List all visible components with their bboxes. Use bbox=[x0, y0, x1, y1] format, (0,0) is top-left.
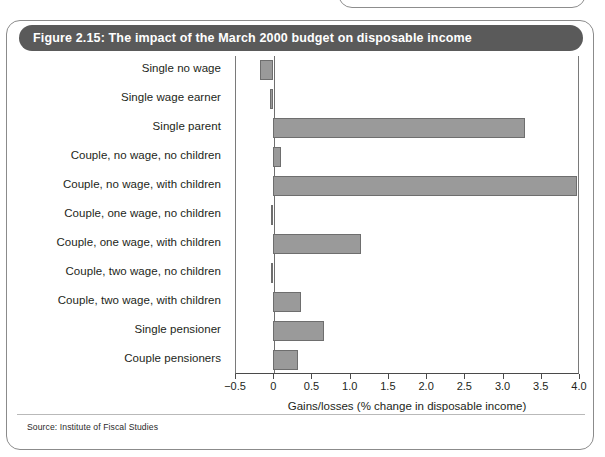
x-axis-tick-labels: −0.500.51.01.52.02.53.03.54.0 bbox=[235, 380, 579, 396]
x-tick bbox=[579, 374, 580, 379]
bar-couple-one-wage-no-children bbox=[271, 205, 273, 225]
category-label: Couple pensioners bbox=[124, 352, 221, 364]
bar-single-parent bbox=[273, 118, 525, 138]
category-label: Single parent bbox=[153, 120, 221, 132]
bars-layer bbox=[235, 56, 579, 374]
x-tick bbox=[464, 374, 465, 379]
x-tick-label: 1.5 bbox=[380, 380, 395, 392]
figure-source-note: Source: Institute of Fiscal Studies bbox=[27, 422, 158, 432]
clipped-rounded-box-above bbox=[338, 0, 586, 8]
category-label: Single wage earner bbox=[121, 91, 221, 103]
figure-card: Figure 2.15: The impact of the March 200… bbox=[6, 20, 594, 450]
category-label: Couple, no wage, no children bbox=[71, 149, 221, 161]
category-label: Single no wage bbox=[142, 62, 221, 74]
x-tick bbox=[388, 374, 389, 379]
bar-couple-one-wage-with-children bbox=[273, 234, 361, 254]
x-tick-label: 2.0 bbox=[418, 380, 433, 392]
x-tick-label: 1.0 bbox=[342, 380, 357, 392]
category-axis-labels: Single no wageSingle wage earnerSingle p… bbox=[7, 56, 229, 374]
bar-couple-two-wage-with-children bbox=[273, 292, 301, 312]
category-label: Couple, two wage, no children bbox=[65, 265, 221, 277]
x-tick bbox=[350, 374, 351, 379]
chart-plot-region: Single no wageSingle wage earnerSingle p… bbox=[7, 21, 594, 450]
x-tick-label: 0.5 bbox=[304, 380, 319, 392]
bar-single-pensioner bbox=[273, 321, 324, 341]
x-tick bbox=[541, 374, 542, 379]
x-tick bbox=[273, 374, 274, 379]
bar-single-no-wage bbox=[260, 60, 273, 80]
bar-couple-no-wage-no-children bbox=[273, 147, 281, 167]
category-label: Couple, two wage, with children bbox=[58, 294, 221, 306]
category-label: Couple, no wage, with children bbox=[63, 178, 221, 190]
category-label: Couple, one wage, no children bbox=[64, 207, 221, 219]
footer-divider bbox=[17, 414, 585, 415]
x-tick-label: −0.5 bbox=[224, 380, 246, 392]
x-tick-label: 3.5 bbox=[533, 380, 548, 392]
x-axis-title: Gains/losses (% change in disposable inc… bbox=[235, 400, 579, 412]
x-tick bbox=[311, 374, 312, 379]
x-tick-label: 3.0 bbox=[495, 380, 510, 392]
category-label: Single pensioner bbox=[135, 323, 221, 335]
bar-couple-two-wage-no-children bbox=[271, 263, 273, 283]
category-label: Couple, one wage, with children bbox=[56, 236, 221, 248]
x-tick-label: 0 bbox=[270, 380, 276, 392]
x-tick bbox=[503, 374, 504, 379]
bar-couple-no-wage-with-children bbox=[273, 176, 577, 196]
bar-couple-pensioners bbox=[273, 350, 298, 370]
x-tick bbox=[235, 374, 236, 379]
x-tick-label: 4.0 bbox=[571, 380, 586, 392]
x-tick bbox=[426, 374, 427, 379]
x-tick-label: 2.5 bbox=[457, 380, 472, 392]
bar-single-wage-earner bbox=[270, 89, 273, 109]
